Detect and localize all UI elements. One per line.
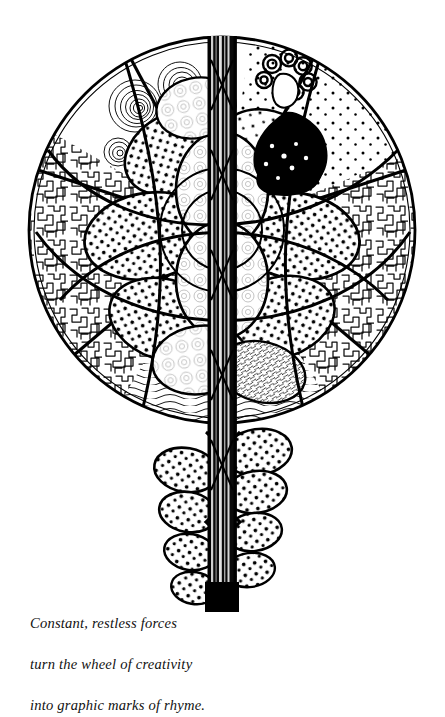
stem-edge-right bbox=[234, 36, 237, 612]
stem-band bbox=[209, 36, 235, 612]
vertical-stem bbox=[205, 36, 239, 612]
figure-head bbox=[273, 74, 299, 108]
caption-line-3: into graphic marks of rhyme. bbox=[30, 695, 330, 716]
stem-edge-left bbox=[208, 36, 211, 612]
caption-line-2: turn the wheel of creativity bbox=[30, 654, 330, 675]
poem-caption: Constant, restless forces turn the wheel… bbox=[30, 592, 330, 717]
caption-line-1: Constant, restless forces bbox=[30, 613, 330, 634]
